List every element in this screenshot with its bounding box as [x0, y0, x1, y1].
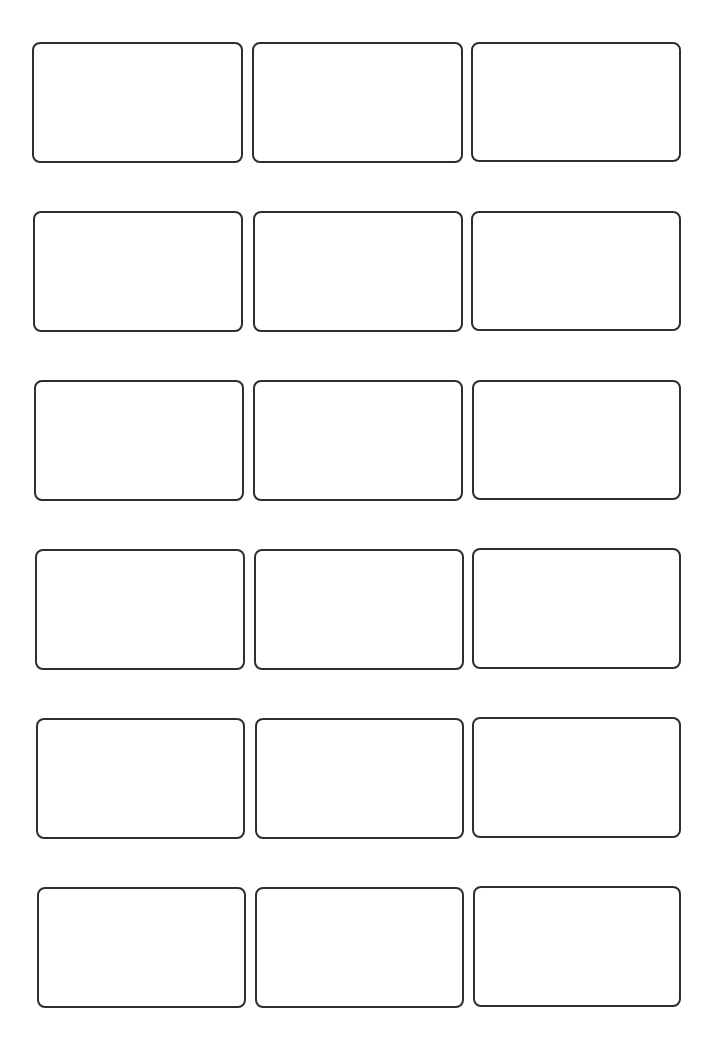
- label-r5-c3: [472, 717, 681, 838]
- label-r3-c2: [253, 380, 463, 501]
- label-r4-c3: [472, 548, 681, 669]
- label-r4-c2: [254, 549, 464, 670]
- label-r5-c1: [36, 718, 245, 839]
- label-r5-c2: [255, 718, 464, 839]
- label-r4-c1: [35, 549, 245, 670]
- label-r6-c1: [37, 887, 246, 1008]
- label-r6-c2: [255, 887, 464, 1008]
- label-r2-c3: [471, 211, 681, 331]
- label-r1-c3: [471, 42, 681, 162]
- label-r1-c2: [252, 42, 463, 163]
- label-r1-c1: [32, 42, 243, 163]
- label-sheet: [0, 0, 722, 1052]
- label-r3-c1: [34, 380, 244, 501]
- label-r2-c1: [33, 211, 243, 332]
- label-r6-c3: [473, 886, 681, 1007]
- label-r2-c2: [253, 211, 463, 332]
- label-r3-c3: [472, 380, 681, 500]
